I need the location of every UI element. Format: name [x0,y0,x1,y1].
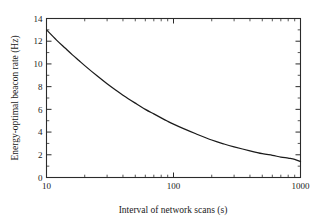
y-tick-label: 14 [34,14,44,24]
x-axis-title: Interval of network scans (s) [119,205,228,216]
x-tick-label: 100 [167,181,181,191]
y-axis-title: Energy-optimal beacon rate (Hz) [10,35,21,160]
x-tick-label: 10 [42,181,52,191]
y-tick-label: 10 [34,59,44,69]
x-axis-tick-labels: 101001000 [42,181,310,191]
y-tick-label: 4 [38,127,43,137]
y-tick-label: 0 [38,173,43,183]
data-series-group [47,30,301,162]
y-tick-label: 2 [38,150,43,160]
y-axis-tick-labels: 02468101214 [34,14,44,183]
figure-container: 101001000 02468101214 Interval of networ… [0,0,325,221]
chart-plot: 101001000 02468101214 Interval of networ… [0,0,325,221]
data-series-line-0 [47,30,301,162]
y-tick-label: 8 [38,82,43,92]
y-tick-label: 6 [38,105,43,115]
y-tick-label: 12 [34,36,43,46]
x-tick-label: 1000 [292,181,311,191]
